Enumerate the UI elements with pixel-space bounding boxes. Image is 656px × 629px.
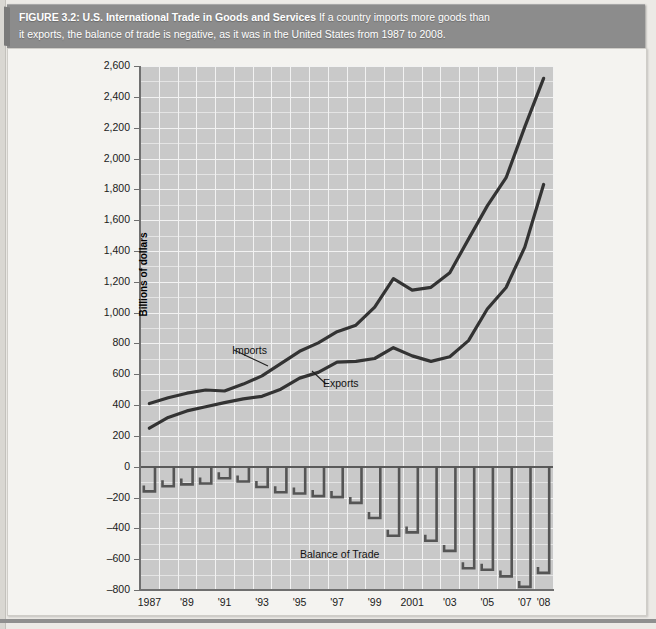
y-tick-label: 2,600 [70, 59, 130, 71]
y-tick-mark [134, 436, 139, 437]
y-tick-label: 1,400 [70, 244, 130, 256]
y-tick-mark [134, 220, 139, 221]
y-tick-label: 2,200 [70, 121, 130, 133]
y-axis-title: Billions of dollars [138, 210, 149, 340]
balance-of-trade-annotation: Balance of Trade [300, 548, 379, 560]
y-tick-label: 800 [70, 336, 130, 348]
y-tick-mark [134, 528, 139, 529]
y-tick-label: 1,200 [70, 275, 130, 287]
y-tick-mark [134, 498, 139, 499]
y-tick-mark [134, 282, 139, 283]
y-tick-label: –600 [70, 552, 130, 564]
y-tick-mark [134, 97, 139, 98]
trade-chart: Billions of dollars Imports Exports Bala… [0, 0, 656, 629]
y-tick-mark [134, 590, 139, 591]
y-tick-mark [134, 559, 139, 560]
y-tick-mark [134, 343, 139, 344]
y-tick-label: 200 [70, 429, 130, 441]
y-tick-mark [134, 251, 139, 252]
y-tick-label: 400 [70, 398, 130, 410]
annotation-leader-lines [140, 66, 554, 591]
y-tick-label: –400 [70, 521, 130, 533]
y-tick-label: 1,800 [70, 182, 130, 194]
y-tick-mark [134, 66, 139, 67]
y-tick-mark [134, 128, 139, 129]
y-tick-mark [134, 189, 139, 190]
figure-container: FIGURE 3.2: U.S. International Trade in … [0, 0, 656, 629]
y-tick-label: –800 [70, 583, 130, 595]
y-tick-label: 0 [70, 460, 130, 472]
y-tick-mark [134, 374, 139, 375]
y-tick-mark [134, 159, 139, 160]
y-tick-label: –200 [70, 491, 130, 503]
y-tick-label: 2,400 [70, 90, 130, 102]
exports-annotation: Exports [323, 377, 359, 389]
page-bottom-rule [0, 619, 656, 623]
y-tick-mark [134, 313, 139, 314]
y-tick-mark [134, 405, 139, 406]
y-tick-mark [134, 467, 139, 468]
x-tick-label: '08 [514, 596, 574, 608]
y-tick-label: 600 [70, 367, 130, 379]
y-tick-label: 1,600 [70, 213, 130, 225]
imports-annotation: Imports [232, 344, 267, 356]
y-tick-label: 2,000 [70, 152, 130, 164]
y-tick-label: 1,000 [70, 306, 130, 318]
